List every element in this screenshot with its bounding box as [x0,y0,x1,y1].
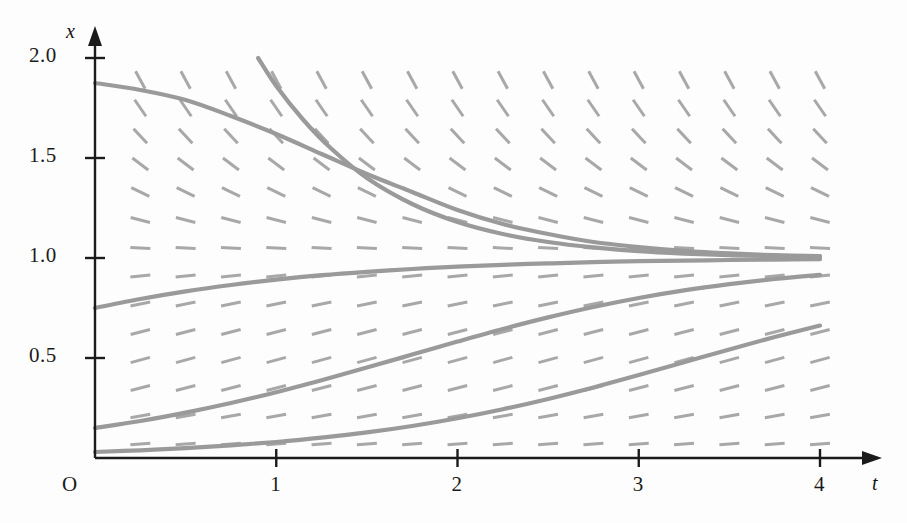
slope-field-dash [538,386,557,391]
slope-field-dash [402,275,422,277]
slope-field-dash [357,275,377,277]
slope-field-dash [176,386,195,391]
slope-field-dash [766,188,784,197]
slope-field-dash [770,71,779,89]
slope-field-dash [402,218,421,223]
slope-field-dash [629,386,648,391]
slope-field-dash [404,158,420,170]
slope-field-dash [267,218,286,223]
slope-field-dash [538,275,558,277]
axes-group [85,26,882,467]
slope-field-dash [539,188,557,197]
slope-field-dash [493,247,513,248]
slope-field-dash [494,188,512,197]
slope-field-dash [675,188,693,197]
slope-field-dash [720,414,740,418]
slope-field-dash [676,158,692,170]
slope-field-dash [538,414,558,418]
slope-field-dash [810,414,830,418]
slope-field-dash [312,218,331,223]
slope-field-dash [674,275,694,277]
slope-field-dash [493,386,512,391]
slope-field-dash [312,386,331,391]
slope-field-dash [357,330,376,335]
slope-field-dash [584,414,604,418]
slope-field-dash [403,330,422,335]
slope-field-dash [810,330,829,335]
slope-field-dash [538,357,557,362]
solution-curve [95,275,820,428]
y-tick-label: 0.5 [29,343,57,368]
slope-field-dash [176,443,196,444]
slope-field-dash [810,386,829,391]
slope-field-dash [130,414,150,418]
slope-field-dash [538,247,558,248]
slope-field-dash [266,247,286,248]
slope-field-dash [589,71,598,89]
slope-field-dash [312,247,332,248]
slope-field-dash [541,129,555,144]
slope-field-dash [584,330,603,335]
x-tick-label: 2 [452,472,463,497]
slope-field-dash [674,414,694,418]
slope-field-dash [312,443,332,444]
slope-field-dash [312,330,331,335]
slope-field-dash [769,100,780,116]
slope-field-dash [221,247,241,248]
slope-field-dash [448,330,467,335]
slope-field-dash [221,218,240,223]
slope-field-dash [719,247,739,248]
slope-field-dash [176,275,196,277]
slope-field-dash [131,330,150,335]
slope-field-dash [538,443,558,444]
slope-field-dash [629,302,649,306]
slope-field-dash [629,357,648,362]
slope-field-dash [224,129,238,144]
slope-field-dash [767,158,783,170]
slope-field-dash [223,158,239,170]
slope-field-dash [629,443,649,444]
slope-field-dash [314,158,330,170]
slope-field-dash [402,443,422,444]
slope-field-dash [176,330,195,335]
slope-field-dash [633,100,644,116]
slope-field-dash [221,275,241,277]
slope-field-dash [266,275,286,277]
slope-field-dash [130,275,150,277]
slope-field-dash [721,158,737,170]
slope-field-dash [453,71,462,89]
slope-field-dash [131,386,150,391]
slope-field-dash [266,302,286,306]
slope-field-dash [814,100,825,116]
slope-field-dash [538,330,557,335]
slope-field-dash [719,443,739,444]
slope-field-dash [312,302,332,306]
slope-field-dash [812,158,828,170]
slope-field-dash [493,443,513,444]
y-axis-arrow-icon [88,26,102,46]
y-tick-label: 1.5 [29,143,57,168]
slope-field-dash [357,302,377,306]
slope-field-dash [448,275,468,277]
slope-field-dash [584,218,603,223]
slope-field-dash [677,129,691,144]
slope-field-dash [267,357,286,362]
slope-field-dash [221,386,240,391]
y-tick-label: 2.0 [29,43,57,68]
slope-field-dash [176,302,196,306]
slope-field-dash [132,158,148,170]
slope-field-dash [448,386,467,391]
slope-field-dash [316,100,327,116]
slope-field-dash [674,443,694,444]
slope-field-dash [402,386,421,391]
x-tick-label: 4 [814,472,825,497]
slope-field-dash [130,247,150,248]
slope-field-dash [221,302,241,306]
slope-field-dash [585,158,601,170]
slope-field-dash [357,218,376,223]
slope-field-dash [267,330,286,335]
slope-field-dash [629,414,649,418]
slope-field-dash [720,302,740,306]
slope-field-dash [724,100,735,116]
slope-field-dash [629,275,649,277]
